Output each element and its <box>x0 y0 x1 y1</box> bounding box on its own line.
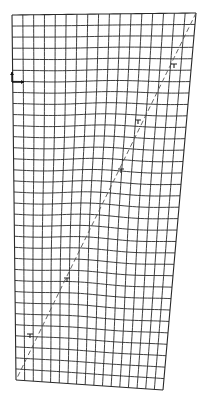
tick-markers <box>27 64 177 338</box>
mesh-row-line <box>13 147 184 150</box>
mesh-row-line <box>16 358 165 367</box>
mesh-row-line <box>15 325 168 333</box>
mesh-column-line <box>33 15 34 381</box>
tick-marker-icon <box>27 334 33 338</box>
mesh-row-line <box>15 292 171 299</box>
axis-arrows-icon <box>12 72 24 82</box>
mesh-row-line <box>15 269 173 275</box>
mesh-column-line <box>23 15 25 381</box>
mesh-row-line <box>14 158 183 161</box>
mesh-row-line <box>16 380 163 390</box>
mesh-row-line <box>13 125 186 128</box>
mesh-row-line <box>13 69 191 70</box>
mesh-row-line <box>16 347 166 356</box>
mesh-row-line <box>12 24 195 26</box>
mesh-row-line <box>16 369 164 379</box>
mesh-row-line <box>15 314 169 322</box>
mesh-row-line <box>13 80 190 82</box>
mesh-figure <box>0 0 206 395</box>
mesh-row-line <box>15 303 170 310</box>
mesh-row-line <box>13 103 188 105</box>
mesh-row-line <box>15 280 172 287</box>
mesh-row-line <box>14 169 182 173</box>
deformed-mesh-diagram <box>0 0 206 395</box>
mesh-row-line <box>13 92 189 94</box>
mesh-row-line <box>14 181 181 185</box>
y-arrowhead-icon <box>10 72 14 75</box>
axes-arrow-icon <box>10 72 24 84</box>
mesh-column-line <box>42 15 45 382</box>
mesh-row-line <box>14 225 177 230</box>
mesh-column-line <box>51 15 56 383</box>
mesh-column-line <box>12 15 16 380</box>
mesh-column-line <box>68 14 77 383</box>
mesh-row-line <box>13 136 185 139</box>
mesh-row-line <box>13 114 187 116</box>
mesh-row-line <box>15 258 174 264</box>
mesh-row-line <box>15 247 175 253</box>
mesh-column-line <box>163 13 196 390</box>
tick-marker-icon <box>171 64 177 68</box>
mesh-column-line <box>59 14 66 383</box>
mesh-row-line <box>12 58 192 59</box>
mesh-row-line <box>16 336 167 345</box>
mesh-row-line <box>12 36 194 37</box>
mesh-row-line <box>14 203 179 207</box>
mesh-row-line <box>14 192 180 196</box>
mesh-row-line <box>12 47 193 48</box>
mesh-row-line <box>14 236 176 241</box>
mesh-row-line <box>12 13 196 15</box>
